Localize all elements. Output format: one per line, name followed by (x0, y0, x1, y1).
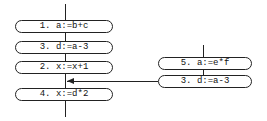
left-node-4: 4. x:=d*2 (15, 88, 113, 101)
merge-arrow-line (67, 81, 158, 82)
left-node-1: 1. a:=b+c (15, 20, 113, 33)
right-node-1: 5. a:=e*f (158, 57, 252, 70)
right-node-2: 3. d:=a-3 (158, 75, 252, 88)
left-node-2: 3. d:=a-3 (15, 41, 113, 54)
left-node-3: 2. x:=x+1 (15, 61, 113, 74)
arrowhead-icon (67, 78, 74, 84)
